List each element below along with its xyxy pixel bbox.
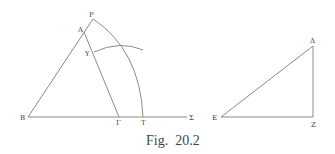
label-a: A bbox=[77, 26, 84, 34]
label-e: E bbox=[212, 114, 217, 122]
label-gamma: Γ bbox=[116, 119, 121, 127]
figure-canvas: P A Y B Γ T Σ Δ E Z Fig. 20.2 bbox=[0, 0, 335, 154]
arc-p-t bbox=[93, 19, 143, 117]
line-b-p bbox=[28, 19, 93, 117]
label-z: Z bbox=[311, 121, 316, 129]
label-b: B bbox=[20, 114, 25, 122]
label-y: Y bbox=[84, 50, 90, 58]
figure-caption: Fig. 20.2 bbox=[146, 133, 200, 148]
arc-from-y bbox=[94, 45, 143, 52]
line-e-delta bbox=[221, 46, 313, 117]
right-diagram: Δ E Z bbox=[212, 37, 316, 129]
label-delta: Δ bbox=[310, 37, 315, 45]
left-diagram: P A Y B Γ T Σ bbox=[20, 11, 194, 127]
label-p: P bbox=[89, 11, 94, 19]
label-sigma: Σ bbox=[189, 114, 194, 122]
line-a-gamma bbox=[84, 32, 119, 117]
label-t: T bbox=[141, 119, 146, 127]
